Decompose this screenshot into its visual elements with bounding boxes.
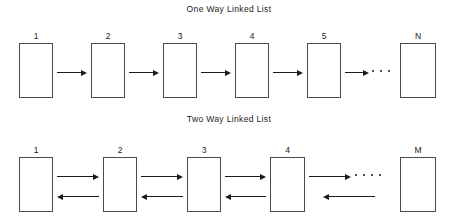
arrow-head-icon bbox=[363, 70, 369, 76]
forward-arrow-1 bbox=[57, 173, 99, 180]
forward-arrow-3 bbox=[201, 69, 231, 76]
node-label-3: 3 bbox=[155, 31, 205, 41]
arrow-head-icon bbox=[225, 70, 231, 76]
node-box-2 bbox=[91, 43, 125, 98]
node-label-4: 4 bbox=[262, 145, 313, 155]
linked-list-diagram: One Way Linked List Two Way Linked List … bbox=[0, 0, 458, 224]
node-box-1 bbox=[19, 157, 53, 212]
arrow-shaft bbox=[57, 176, 93, 177]
forward-arrow-2 bbox=[141, 173, 183, 180]
backward-arrow-4 bbox=[323, 193, 375, 200]
forward-arrow-4 bbox=[309, 173, 351, 180]
backward-arrow-2 bbox=[141, 193, 183, 200]
arrow-shaft bbox=[231, 196, 266, 197]
arrow-head-icon bbox=[153, 70, 159, 76]
arrow-head-icon bbox=[81, 70, 87, 76]
arrow-head-icon bbox=[93, 174, 99, 180]
node-box-3 bbox=[163, 43, 197, 98]
arrow-head-icon bbox=[260, 174, 266, 180]
arrow-shaft bbox=[129, 72, 153, 73]
node-box-4 bbox=[235, 43, 269, 98]
arrow-shaft bbox=[345, 72, 363, 73]
arrow-head-icon bbox=[141, 194, 147, 200]
continuation-ellipsis-icon bbox=[355, 174, 381, 176]
ellipsis-dot bbox=[363, 174, 365, 176]
arrow-shaft bbox=[141, 176, 177, 177]
arrow-shaft bbox=[273, 72, 297, 73]
arrow-shaft bbox=[147, 196, 183, 197]
ellipsis-dot bbox=[372, 70, 374, 72]
one-way-linked-list-title: One Way Linked List bbox=[0, 4, 458, 14]
ellipsis-dot bbox=[355, 174, 357, 176]
arrow-head-icon bbox=[57, 194, 63, 200]
arrow-shaft bbox=[63, 196, 99, 197]
two-way-linked-list-title: Two Way Linked List bbox=[0, 114, 458, 124]
node-label-4: 4 bbox=[227, 31, 277, 41]
ellipsis-dot bbox=[379, 174, 381, 176]
arrow-shaft bbox=[57, 72, 81, 73]
node-label-n: N bbox=[392, 31, 444, 41]
node-label-1: 1 bbox=[11, 145, 61, 155]
node-label-1: 1 bbox=[11, 31, 61, 41]
node-label-m: M bbox=[392, 145, 444, 155]
forward-arrow-4 bbox=[273, 69, 303, 76]
arrow-head-icon bbox=[177, 174, 183, 180]
forward-arrow-2 bbox=[129, 69, 159, 76]
forward-arrow-1 bbox=[57, 69, 87, 76]
forward-arrow-3 bbox=[225, 173, 266, 180]
node-box-m bbox=[400, 157, 436, 212]
node-box-2 bbox=[103, 157, 137, 212]
arrow-head-icon bbox=[323, 194, 329, 200]
node-label-2: 2 bbox=[95, 145, 145, 155]
arrow-shaft bbox=[201, 72, 225, 73]
node-label-3: 3 bbox=[179, 145, 229, 155]
arrow-head-icon bbox=[345, 174, 351, 180]
arrow-head-icon bbox=[225, 194, 231, 200]
arrow-shaft bbox=[309, 176, 345, 177]
ellipsis-dot bbox=[371, 174, 373, 176]
arrow-shaft bbox=[329, 196, 375, 197]
arrow-shaft bbox=[225, 176, 260, 177]
backward-arrow-1 bbox=[57, 193, 99, 200]
node-box-3 bbox=[187, 157, 221, 212]
ellipsis-dot bbox=[388, 70, 390, 72]
node-box-1 bbox=[19, 43, 53, 98]
ellipsis-dot bbox=[380, 70, 382, 72]
node-label-2: 2 bbox=[83, 31, 133, 41]
node-box-4 bbox=[270, 157, 305, 212]
forward-arrow-5 bbox=[345, 69, 369, 76]
node-label-5: 5 bbox=[299, 31, 349, 41]
node-box-5 bbox=[307, 43, 341, 98]
arrow-head-icon bbox=[297, 70, 303, 76]
node-box-n bbox=[400, 43, 436, 98]
continuation-ellipsis-icon bbox=[372, 70, 390, 72]
backward-arrow-3 bbox=[225, 193, 266, 200]
